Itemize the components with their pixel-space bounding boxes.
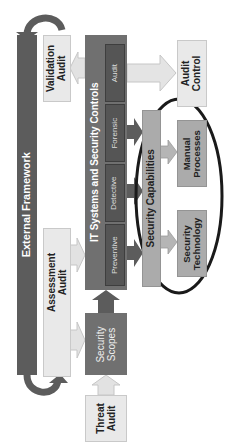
assessment-audit-line1: Assessment <box>47 253 58 312</box>
threat-audit-line1: Threat <box>96 403 107 434</box>
arrow-forensic-to-capabilities <box>127 118 143 146</box>
assessment-audit-line2: Audit <box>57 253 68 312</box>
control-detective-box: Detective <box>105 164 125 222</box>
control-preventive-label: Preventive <box>111 236 119 274</box>
security-technology-line2: Technology <box>192 217 202 270</box>
assessment-audit-box: Assessment Audit <box>43 228 71 377</box>
arrow-assessment-to-scopes <box>70 322 85 358</box>
manual-processes-box: Manual Processes <box>177 120 207 187</box>
control-forensic-label: Forensic <box>111 118 119 149</box>
audit-control-box: Audit Control <box>177 40 207 107</box>
arrow-assessment-to-it <box>70 238 85 272</box>
arrow-capabilities-to-technology <box>160 230 177 254</box>
external-framework-bar: External Framework <box>17 35 37 375</box>
control-detective-label: Detective <box>111 176 119 209</box>
threat-audit-box: Threat Audit <box>85 395 127 442</box>
arrow-scopes-to-it <box>92 290 120 313</box>
it-systems-label: IT Systems and Security Controls <box>90 83 101 243</box>
security-technology-box: Security Technology <box>177 210 207 277</box>
control-forensic-box: Forensic <box>105 104 125 162</box>
validation-audit-line2: Audit <box>57 45 68 92</box>
security-capabilities-box: Security Capabilities <box>142 110 161 287</box>
curved-arrow-bottom <box>27 375 58 392</box>
control-preventive-box: Preventive <box>105 224 125 286</box>
security-capabilities-label: Security Capabilities <box>146 149 157 247</box>
security-scopes-box: Security Scopes <box>85 313 127 375</box>
threat-audit-line2: Audit <box>106 403 117 434</box>
validation-audit-box: Validation Audit <box>43 35 71 102</box>
security-scopes-line1: Security <box>96 326 107 362</box>
security-scopes-line2: Scopes <box>106 326 117 362</box>
arrow-capabilities-to-manual <box>160 140 177 164</box>
arrow-to-validation-audit <box>70 52 85 84</box>
control-audit-label: Audit <box>111 64 119 82</box>
arrow-threat-to-scopes <box>92 375 120 395</box>
audit-control-line2: Control <box>192 56 203 92</box>
external-framework-label: External Framework <box>21 152 33 257</box>
control-audit-box: Audit <box>105 44 125 102</box>
arrow-it-to-audit-control <box>127 55 176 91</box>
manual-processes-line2: Processes <box>192 130 202 178</box>
